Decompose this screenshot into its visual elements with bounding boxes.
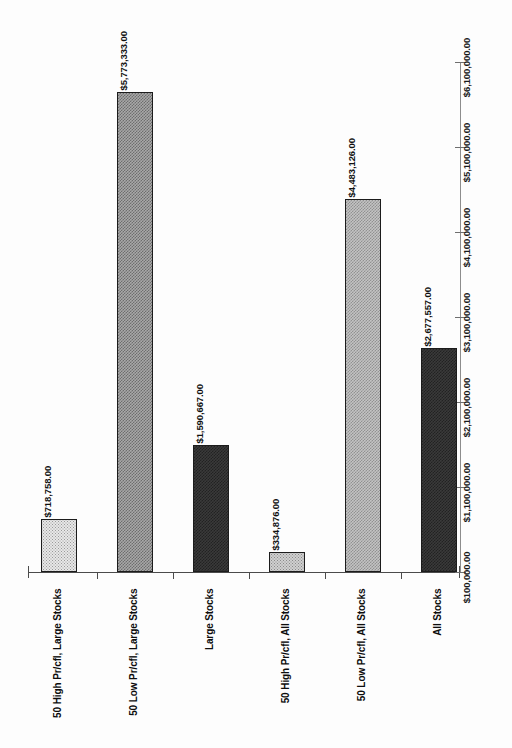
value-axis-label-3: $3,100,000.00 (461, 293, 472, 352)
category-tick-1 (97, 572, 98, 579)
category-label-1: 50 Low Pr/cfl, Large Stocks (128, 589, 139, 716)
category-tick-3 (249, 572, 250, 579)
category-label-3: 50 High Pr/cfl, All Stocks (280, 589, 291, 704)
bar-value-5: $2,677,557.00 (422, 287, 433, 346)
category-tick-5 (401, 572, 402, 579)
category-label-0: 50 High Pr/cfl, Large Stocks (52, 589, 63, 718)
bar-0 (41, 519, 77, 572)
value-axis-label-2: $2,100,000.00 (461, 378, 472, 437)
category-axis-line (28, 572, 460, 573)
bar-3 (269, 552, 305, 572)
category-tick-2 (173, 572, 174, 579)
bar-value-0: $718,758.00 (42, 466, 53, 518)
bar-value-3: $334,876.00 (270, 499, 281, 551)
value-axis-label-5: $5,100,000.00 (461, 123, 472, 182)
category-label-5: All Stocks (432, 589, 443, 636)
bar-chart: $100,000.00 $1,100,000.00 $2,100,000.00 … (0, 0, 512, 748)
bar-value-1: $5,773,333.00 (118, 31, 129, 90)
value-axis-label-4: $4,100,000.00 (461, 208, 472, 267)
category-axis-start-cap (28, 566, 29, 578)
value-axis-label-1: $1,100,000.00 (461, 463, 472, 522)
category-tick-4 (325, 572, 326, 579)
bar-5 (421, 348, 457, 572)
bar-2 (193, 445, 229, 572)
value-axis-label-6: $6,100,000.00 (461, 38, 472, 97)
bar-value-4: $4,483,126.00 (346, 138, 357, 197)
bar-1 (117, 92, 153, 572)
plot-area: $100,000.00 $1,100,000.00 $2,100,000.00 … (0, 0, 470, 600)
value-axis-label-0: $100,000.00 (461, 552, 472, 604)
bar-value-2: $1,590,667.00 (194, 384, 205, 443)
category-label-2: Large Stocks (204, 589, 215, 651)
category-label-4: 50 Low Pr/cfl, All Stocks (356, 589, 367, 702)
bar-4 (345, 199, 381, 572)
